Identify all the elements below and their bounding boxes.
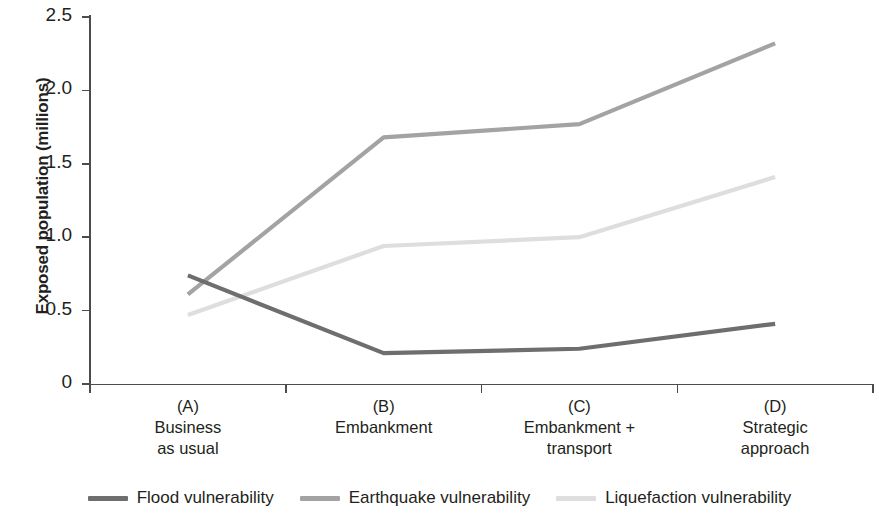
x-axis-category-label: (B)Embankment — [289, 396, 479, 438]
x-axis-tick — [89, 384, 91, 393]
x-axis-tick — [285, 384, 287, 393]
legend-label: Flood vulnerability — [137, 488, 274, 508]
x-axis-tick — [481, 384, 483, 393]
series-line — [188, 275, 775, 353]
y-axis-tick — [82, 16, 90, 18]
y-axis-tick — [82, 310, 90, 312]
legend-item[interactable]: Earthquake vulnerability — [300, 488, 530, 508]
legend-label: Liquefaction vulnerability — [605, 488, 791, 508]
x-axis-category-label: (C)Embankment +transport — [484, 396, 674, 459]
legend-color-swatch — [300, 496, 340, 501]
y-axis-title: Exposed population (millions) — [33, 1, 53, 391]
legend-color-swatch — [88, 496, 128, 501]
y-axis-tick — [82, 236, 90, 238]
legend-item[interactable]: Flood vulnerability — [88, 488, 274, 508]
y-axis-tick — [82, 163, 90, 165]
legend-item[interactable]: Liquefaction vulnerability — [556, 488, 791, 508]
x-axis-tick — [677, 384, 679, 393]
series-line — [188, 177, 775, 315]
x-axis-category-label: (A)Businessas usual — [93, 396, 283, 459]
legend-label: Earthquake vulnerability — [349, 488, 530, 508]
x-axis-tick — [872, 384, 874, 393]
plot-area — [90, 17, 873, 384]
y-axis-tick — [82, 90, 90, 92]
series-line — [188, 43, 775, 294]
x-axis-category-label: (D)Strategicapproach — [680, 396, 870, 459]
legend-color-swatch — [556, 496, 596, 501]
chart-legend: Flood vulnerabilityEarthquake vulnerabil… — [0, 488, 879, 508]
chart-figure: Exposed population (millions) 00.51.01.5… — [0, 0, 879, 520]
